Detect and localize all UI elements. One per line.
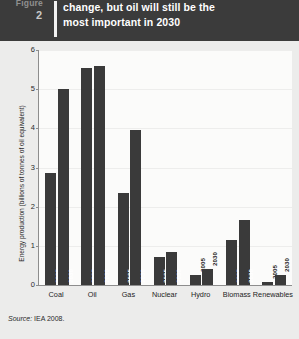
y-axis-tick-label: 6	[19, 45, 35, 54]
x-axis-category-label: Renewables	[253, 290, 293, 299]
x-axis-category-label: Hydro	[191, 290, 210, 299]
grid-line	[39, 89, 292, 90]
y-axis-tick-mark	[36, 89, 39, 90]
bar[interactable]	[94, 66, 105, 285]
y-axis-label: Energy production (billions of tonnes of…	[18, 84, 25, 284]
y-axis-tick-mark	[36, 246, 39, 247]
bar[interactable]	[81, 68, 92, 285]
x-axis-category-label: Oil	[88, 290, 97, 299]
bar[interactable]	[58, 89, 69, 285]
bar[interactable]	[275, 275, 286, 285]
x-axis-category-label: Gas	[122, 290, 135, 299]
figure-word-label: Figure	[16, 0, 43, 8]
y-axis-tick-label: 2	[19, 202, 35, 211]
y-axis-tick-mark	[36, 128, 39, 129]
header-divider	[54, 1, 57, 37]
bar[interactable]	[262, 282, 273, 285]
grid-line	[39, 246, 292, 247]
figure-title-line-2: most important in 2030	[63, 15, 293, 30]
grid-line	[39, 128, 292, 129]
y-axis-tick-mark	[36, 285, 39, 286]
figure-number-block: Figure 2	[0, 0, 50, 41]
source-label: Source:	[8, 315, 32, 322]
plot-area: 0123456200520302005203020052030200520302…	[38, 50, 292, 286]
source-note: Source: IEA 2008.	[8, 315, 64, 322]
bar-year-label: 2030	[67, 268, 74, 282]
x-axis-category-label: Biomass	[223, 290, 251, 299]
bar-year-label: 2030	[247, 268, 254, 282]
x-axis-category-label: Nuclear	[152, 290, 177, 299]
figure-title: change, but oil will still be the most i…	[63, 0, 293, 29]
source-text: IEA 2008.	[32, 315, 64, 322]
grid-line	[39, 168, 292, 169]
figure-title-line-1-visible: change, but oil will still be the	[63, 0, 293, 15]
bar-year-label: 2030	[139, 268, 146, 282]
bar[interactable]	[202, 269, 213, 285]
y-axis-tick-mark	[36, 168, 39, 169]
y-axis-tick-mark	[36, 207, 39, 208]
figure-page: Figure 2 change, but oil will still be t…	[0, 0, 299, 339]
y-axis-tick-label: 0	[19, 280, 35, 289]
bar-year-label: 2030	[211, 251, 218, 265]
grid-line	[39, 50, 292, 51]
figure-number-value: 2	[36, 9, 42, 21]
grid-line	[39, 207, 292, 208]
chart-container: Energy production (billions of tonnes of…	[0, 41, 299, 339]
bar[interactable]	[190, 275, 201, 285]
bar-year-label: 2030	[175, 268, 182, 282]
bar[interactable]	[130, 130, 141, 285]
figure-header: Figure 2 change, but oil will still be t…	[0, 0, 299, 41]
y-axis-tick-label: 1	[19, 241, 35, 250]
y-axis-tick-mark	[36, 50, 39, 51]
y-axis-tick-label: 3	[19, 163, 35, 172]
x-axis-category-label: Coal	[49, 290, 64, 299]
y-axis-tick-label: 4	[19, 123, 35, 132]
bar-year-label: 2030	[103, 268, 110, 282]
y-axis-tick-label: 5	[19, 84, 35, 93]
bar-year-label: 2030	[283, 258, 290, 272]
